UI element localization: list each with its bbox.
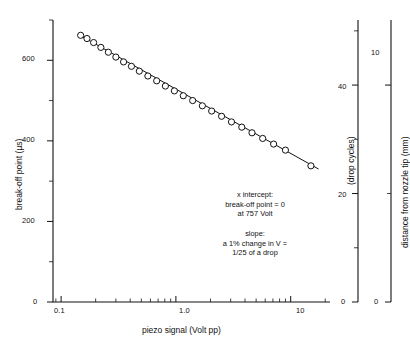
data-point [154, 78, 160, 84]
data-point [128, 63, 134, 69]
data-point [282, 147, 288, 153]
right-inner-axis-title: (drop cycles) [346, 136, 356, 185]
slope-line-1: slope: [196, 229, 314, 239]
data-point [180, 93, 186, 99]
data-point [105, 49, 111, 55]
data-point [136, 68, 142, 74]
data-point [98, 44, 104, 50]
x-tick-label-0p1: 0.1 [54, 306, 65, 315]
data-point [113, 54, 119, 60]
slope-line-2: a 1% change in V = [196, 239, 314, 249]
data-point [308, 163, 314, 169]
y-tick-label-200: 200 [22, 216, 35, 225]
drop-cycles-tick-0: 0 [341, 297, 345, 306]
data-point [162, 83, 168, 89]
data-point [171, 88, 177, 94]
data-point [260, 135, 266, 141]
data-point [249, 130, 255, 136]
nozzle-distance-tick-10: 10 [371, 48, 380, 57]
x-tick-label-1p0: 1.0 [179, 306, 190, 315]
nozzle-distance-tick-0: 0 [374, 297, 378, 306]
data-point-group [78, 32, 314, 169]
drop-cycles-tick-40: 40 [338, 82, 347, 91]
data-point [145, 73, 151, 79]
x-intercept-line-1: x intercept: [196, 190, 314, 200]
data-point [228, 119, 234, 125]
data-point [209, 108, 215, 114]
x-intercept-annotation: x intercept: break-off point = 0 at 757 … [196, 190, 314, 219]
data-point [120, 59, 126, 65]
x-intercept-line-2: break-off point = 0 [196, 200, 314, 210]
slope-annotation: slope: a 1% change in V = 1/25 of a drop [196, 229, 314, 258]
x-axis-title: piezo signal (Volt pp) [142, 325, 221, 335]
y-tick-label-0: 0 [33, 297, 37, 306]
data-point [84, 35, 90, 41]
data-point [271, 141, 277, 147]
x-intercept-line-3: at 757 Volt [196, 209, 314, 219]
y-axis-title: break-off point (µs) [14, 139, 24, 210]
drop-cycles-tick-20: 20 [338, 190, 347, 199]
main-axis-spine [53, 20, 330, 302]
data-point [218, 113, 224, 119]
data-point [239, 124, 245, 130]
x-tick-label-10: 10 [296, 306, 305, 315]
y-tick-label-600: 600 [22, 54, 35, 63]
data-point [190, 97, 196, 103]
data-point [78, 32, 84, 38]
slope-line-3: 1/25 of a drop [196, 248, 314, 258]
right-outer-axis-title: distance from nozzle tip (mm) [400, 137, 410, 248]
data-point [91, 39, 97, 45]
data-point [199, 103, 205, 109]
y-tick-label-400: 400 [22, 135, 35, 144]
